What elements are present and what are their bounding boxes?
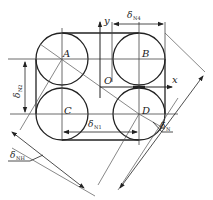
svg-text:N1: N1 [94, 124, 102, 130]
label-a: A [62, 48, 70, 59]
label-b: B [141, 48, 149, 59]
svg-text:δ: δ [127, 10, 132, 20]
label-d: D [141, 105, 150, 116]
svg-text:δ: δ [160, 121, 165, 131]
svg-text:N4: N4 [133, 15, 141, 21]
svg-text:δ: δ [12, 93, 22, 98]
label-o: O [104, 75, 112, 86]
geometry-diagram: A B C D O y x δ N4 δ N2 δ N1 δ NH δ N [0, 0, 213, 200]
label-x-axis: x [172, 74, 178, 85]
label-c: C [64, 105, 72, 116]
svg-text:N: N [166, 126, 171, 132]
svg-text:δ: δ [10, 150, 15, 160]
svg-text:N2: N2 [17, 84, 23, 92]
svg-text:NH: NH [16, 155, 25, 161]
dim-label-n4: δ N4 [127, 10, 141, 21]
dim-label-n1: δ N1 [88, 119, 102, 130]
label-y-axis: y [103, 15, 110, 26]
dim-label-n2: δ N2 [12, 84, 23, 98]
dim-label-n: δ N [160, 121, 171, 132]
construction-lines [12, 33, 205, 196]
svg-text:δ: δ [88, 119, 93, 129]
